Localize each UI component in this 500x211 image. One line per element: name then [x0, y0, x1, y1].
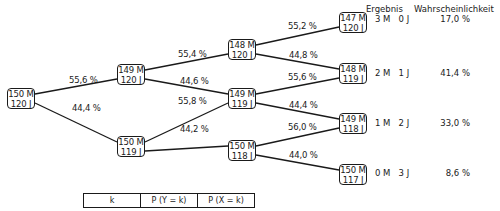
node-count-m: 149 M — [118, 65, 144, 75]
edge-probability-label: 55,6 % — [69, 75, 98, 85]
edge-probability-label: 56,0 % — [288, 122, 317, 132]
node-count-j: 117 J — [340, 175, 366, 185]
result-outcome: 3 M 0 J — [375, 14, 409, 24]
tree-node: 150 M120 J — [7, 88, 35, 109]
tree-edge — [145, 146, 228, 151]
node-count-m: 149 M — [229, 89, 255, 99]
result-probability: 17,0 % — [430, 14, 470, 24]
edge-probability-label: 55,2 % — [288, 21, 317, 31]
header-probability: Wahrscheinlichkeit — [414, 4, 494, 14]
tree-node: 148 M119 J — [339, 63, 367, 84]
node-count-j: 120 J — [229, 50, 255, 60]
node-count-m: 149 M — [340, 114, 366, 124]
tree-node: 147 M120 J — [339, 12, 367, 33]
distribution-table: k P (Y = k) P (X = k) — [83, 193, 255, 208]
edge-probability-label: 44,4 % — [289, 100, 318, 110]
edge-probability-label: 44,2 % — [180, 124, 209, 134]
table-header-row: k P (Y = k) P (X = k) — [84, 194, 255, 208]
tree-node: 150 M119 J — [117, 136, 145, 157]
result-probability: 33,0 % — [430, 118, 470, 128]
result-outcome: 2 M 1 J — [375, 68, 409, 78]
tree-node: 148 M120 J — [228, 39, 256, 60]
node-count-j: 120 J — [118, 75, 144, 85]
edge-probability-label: 44,4 % — [72, 103, 101, 113]
node-count-m: 150 M — [8, 89, 34, 99]
table-header-k: k — [84, 194, 141, 208]
result-outcome: 0 M 3 J — [375, 168, 409, 178]
edge-probability-label: 55,8 % — [178, 96, 207, 106]
edge-probability-label: 44,6 % — [180, 76, 209, 86]
tree-node: 150 M118 J — [228, 140, 256, 161]
tree-node: 150 M117 J — [339, 164, 367, 185]
table-header-py: P (Y = k) — [141, 194, 198, 208]
node-count-m: 150 M — [229, 141, 255, 151]
node-count-j: 119 J — [118, 147, 144, 157]
result-probability: 41,4 % — [430, 68, 470, 78]
tree-node: 149 M119 J — [228, 88, 256, 109]
node-count-m: 148 M — [229, 40, 255, 50]
node-count-j: 118 J — [229, 151, 255, 161]
node-count-j: 120 J — [8, 99, 34, 109]
result-probability: 8,6 % — [430, 168, 470, 178]
node-count-m: 147 M — [340, 13, 366, 23]
header-outcome: Ergebnis — [366, 4, 403, 14]
node-count-j: 119 J — [340, 74, 366, 84]
edge-probability-label: 44,8 % — [289, 50, 318, 60]
tree-edge — [145, 103, 228, 142]
node-count-j: 119 J — [229, 99, 255, 109]
tree-node: 149 M118 J — [339, 113, 367, 134]
edge-probability-label: 55,4 % — [178, 49, 207, 59]
edge-probability-label: 44,0 % — [289, 150, 318, 160]
node-count-j: 120 J — [340, 23, 366, 33]
node-count-m: 150 M — [118, 137, 144, 147]
node-count-j: 118 J — [340, 124, 366, 134]
edge-probability-label: 55,6 % — [288, 72, 317, 82]
result-outcome: 1 M 2 J — [375, 118, 409, 128]
node-count-m: 148 M — [340, 64, 366, 74]
node-count-m: 150 M — [340, 165, 366, 175]
table-header-px: P (X = k) — [198, 194, 255, 208]
tree-node: 149 M120 J — [117, 64, 145, 85]
